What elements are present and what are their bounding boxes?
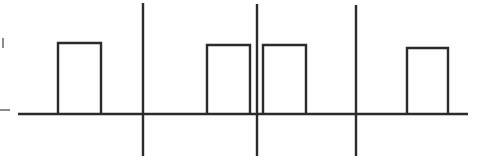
pulse-group: [58, 43, 448, 114]
axis-tick-group: [0, 38, 10, 110]
pulse-2: [207, 45, 250, 114]
pulse-4: [407, 48, 448, 114]
pulse-3: [263, 45, 306, 114]
pulse-1: [58, 43, 101, 114]
pulse-waveform-figure: [0, 0, 485, 164]
waveform-canvas: [0, 0, 485, 164]
